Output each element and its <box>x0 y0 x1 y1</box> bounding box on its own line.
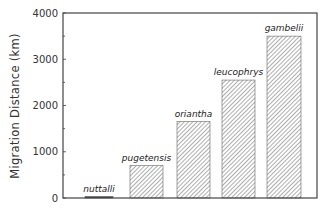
bar-gambelii <box>267 36 301 198</box>
bar-label-oriantha: oriantha <box>175 109 213 119</box>
y-tick-label: 1000 <box>33 146 58 157</box>
bar-label-nuttalli: nuttalli <box>83 184 115 194</box>
y-tick-label: 0 <box>52 193 58 204</box>
bar-chart: nuttallipugetensisorianthaleucophrysgamb… <box>0 0 327 210</box>
y-tick-label: 4000 <box>33 8 58 19</box>
bar-oriantha <box>177 122 210 198</box>
bar-label-gambelii: gambelii <box>265 23 304 33</box>
y-tick-label: 2000 <box>33 100 58 111</box>
bar-pugetensis <box>130 166 163 198</box>
bar-label-pugetensis: pugetensis <box>121 153 172 163</box>
plot-area: nuttallipugetensisorianthaleucophrysgamb… <box>33 8 317 204</box>
y-tick-label: 3000 <box>33 54 58 65</box>
bar-label-leucophrys: leucophrys <box>214 67 264 77</box>
y-axis-label: Migration Distance (km) <box>8 33 22 179</box>
bar-leucophrys <box>222 80 255 198</box>
